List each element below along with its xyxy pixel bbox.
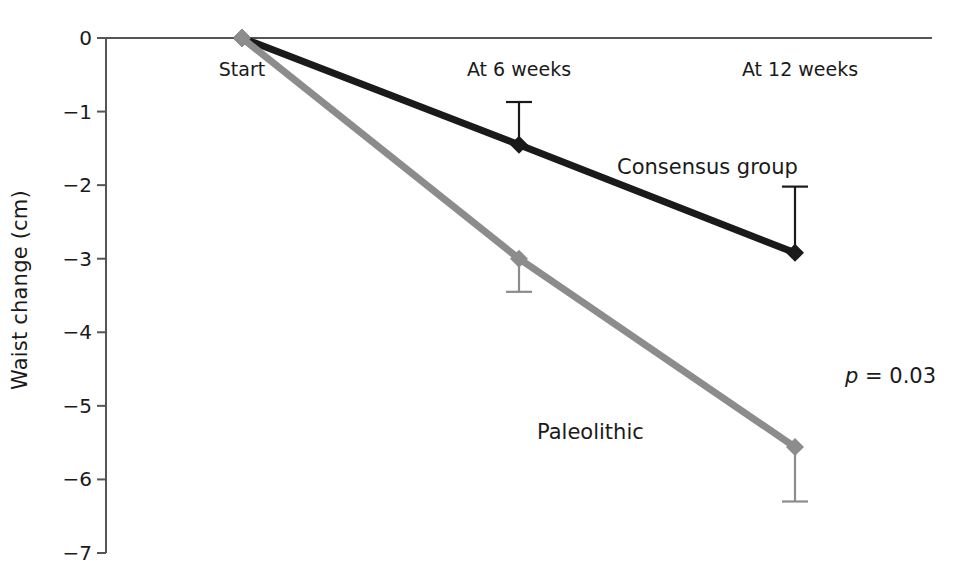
chart-plot-area: [0, 0, 964, 580]
series-line-1: [242, 38, 795, 447]
x-tick-label-0: Start: [219, 58, 265, 80]
y-tick-label-4: −4: [40, 320, 92, 344]
x-tick-label-2: At 12 weeks: [742, 58, 858, 80]
y-tick-label-6: −6: [40, 467, 92, 491]
series-label-paleolithic: Paleolithic: [537, 420, 644, 444]
data-point-marker-0-1: [510, 136, 528, 154]
waist-change-chart: Waist change (cm) 0−1−2−3−4−5−6−7 StartA…: [0, 0, 964, 580]
p-symbol: p: [845, 364, 858, 388]
y-tick-label-7: −7: [40, 541, 92, 565]
series-label-consensus-group: Consensus group: [617, 155, 798, 179]
y-tick-label-5: −5: [40, 394, 92, 418]
x-tick-label-1: At 6 weeks: [467, 58, 571, 80]
data-point-marker-0-2: [786, 244, 804, 262]
y-tick-label-0: 0: [40, 26, 92, 50]
p-value-text: = 0.03: [858, 364, 936, 388]
y-tick-label-2: −2: [40, 173, 92, 197]
y-tick-label-1: −1: [40, 100, 92, 124]
axis-group: [97, 38, 932, 553]
p-value-annotation: p = 0.03: [845, 364, 936, 388]
y-axis-title: Waist change (cm): [0, 0, 40, 580]
series-group: [233, 29, 808, 501]
y-tick-label-3: −3: [40, 247, 92, 271]
